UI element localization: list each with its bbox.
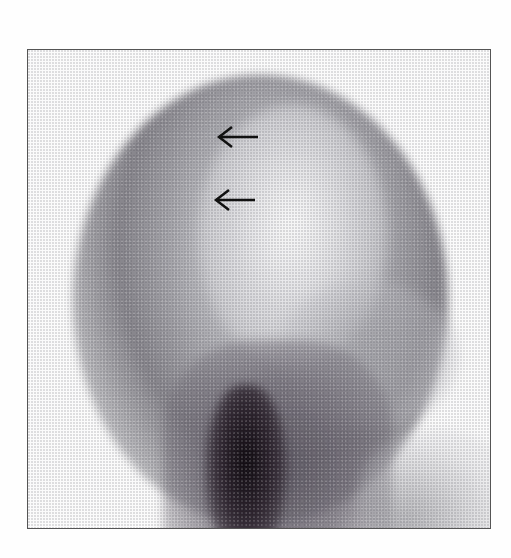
left-arrow-icon xyxy=(216,125,260,149)
left-arrow-icon xyxy=(213,188,257,212)
scan-image-frame xyxy=(27,49,491,529)
scan-noise-texture xyxy=(28,50,490,528)
